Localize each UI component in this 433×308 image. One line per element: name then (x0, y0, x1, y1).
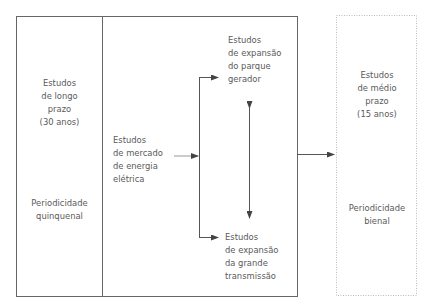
text-line: de energia (113, 160, 183, 173)
text-line: do parque (228, 60, 298, 73)
market-study-label: Estudos de mercado de energia elétrica (113, 134, 183, 186)
long-term-title: Estudos de longo prazo (30 anos) (17, 77, 102, 129)
text-line: quinquenal (17, 210, 102, 223)
text-line: transmissão (225, 270, 297, 283)
transmission-study-label: Estudos de expansão da grande transmissã… (225, 231, 297, 283)
medium-term-periodicity: Periodicidade bienal (337, 202, 417, 228)
medium-term-container (337, 16, 417, 296)
text-line: Periodicidade (17, 197, 102, 210)
medium-term-title: Estudos de médio prazo (15 anos) (337, 69, 417, 121)
text-line: Estudos (228, 34, 298, 47)
text-line: Estudos (17, 77, 102, 90)
text-line: Estudos (113, 134, 183, 147)
text-line: gerador (228, 73, 298, 86)
text-line: da grande (225, 257, 297, 270)
diagram-connectors (0, 0, 433, 308)
text-line: de longo (17, 90, 102, 103)
long-term-periodicity: Periodicidade quinquenal (17, 197, 102, 223)
text-line: prazo (17, 103, 102, 116)
text-line: (15 anos) (337, 108, 417, 121)
text-line: Estudos (337, 69, 417, 82)
text-line: bienal (337, 215, 417, 228)
text-line: elétrica (113, 173, 183, 186)
text-line: de mercado (113, 147, 183, 160)
text-line: de expansão (225, 244, 297, 257)
text-line: de expansão (228, 47, 298, 60)
text-line: prazo (337, 95, 417, 108)
generation-study-label: Estudos de expansão do parque gerador (228, 34, 298, 86)
text-line: Periodicidade (337, 202, 417, 215)
text-line: de médio (337, 82, 417, 95)
text-line: (30 anos) (17, 116, 102, 129)
text-line: Estudos (225, 231, 297, 244)
